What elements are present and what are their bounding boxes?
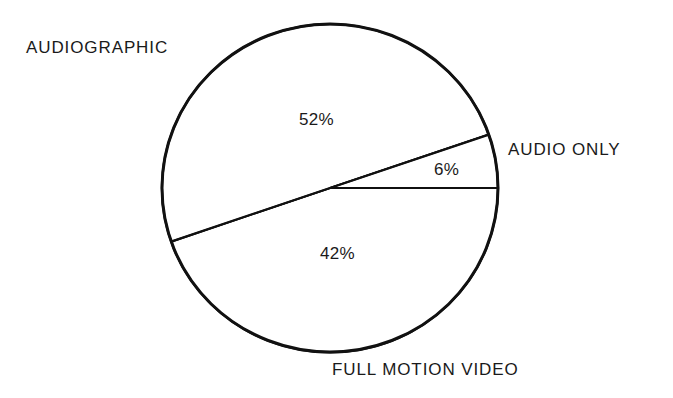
value-label-audio-only: 6% — [434, 160, 459, 180]
pie-chart-figure: AUDIOGRAPHIC AUDIO ONLY FULL MOTION VIDE… — [0, 0, 673, 398]
value-label-full-motion-video: 42% — [320, 244, 355, 264]
category-label-audio-only: AUDIO ONLY — [508, 140, 621, 160]
value-label-audiographic: 52% — [299, 110, 334, 130]
pie-chart-canvas — [0, 0, 673, 398]
category-label-audiographic: AUDIOGRAPHIC — [26, 38, 168, 58]
category-label-full-motion-video: FULL MOTION VIDEO — [332, 360, 519, 380]
